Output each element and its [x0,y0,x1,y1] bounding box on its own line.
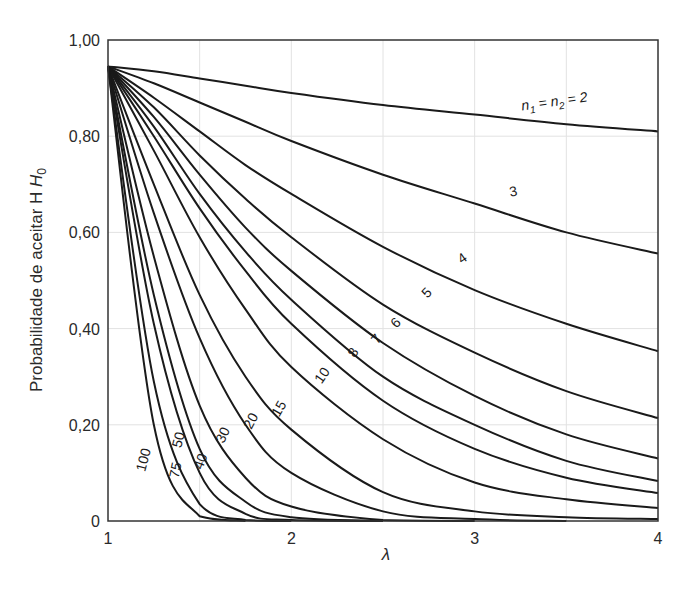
x-axis-label: λ [381,545,390,564]
curve-label-n-50: 50 [168,430,188,449]
y-tick-label: 0,60 [69,224,100,241]
curve-label-n-3: 3 [508,182,519,199]
y-tick-label: 1,00 [69,32,100,49]
curve-label-n-30: 30 [212,424,233,445]
curve-label-n-75: 75 [166,460,185,479]
curve-label-n-40: 40 [190,451,210,471]
curve-label-n-4: 4 [454,249,470,267]
curve-labels: n1 = n2 = 234567810152030405075100 [132,88,589,479]
y-axis-ticks: 00,200,400,600,801,00 [69,32,100,530]
curve-label-n-10: 10 [311,364,333,386]
oc-curve-chart: 00,200,400,600,801,00 1234 n1 = n2 = 234… [0,0,694,594]
curve-label-n-7: 7 [368,331,385,347]
curve-label-n-100: 100 [132,446,154,473]
curve-label-n-20: 20 [240,410,262,431]
curve-label-n-5: 5 [418,284,435,301]
curve-label-n-n1 = n2 = 2: n1 = n2 = 2 [520,88,589,116]
grid-lines [108,40,658,521]
y-axis-label: Probabilidade de aceitar H H0 [27,168,49,392]
x-tick-label: 3 [470,530,479,547]
y-tick-label: 0,20 [69,417,100,434]
x-tick-label: 1 [104,530,113,547]
oc-curve-n-20 [108,66,566,521]
y-tick-label: 0,40 [69,321,100,338]
y-tick-label: 0,80 [69,128,100,145]
x-tick-label: 4 [654,530,663,547]
x-tick-label: 2 [287,530,296,547]
y-tick-label: 0 [91,513,100,530]
curve-label-n-15: 15 [268,398,290,420]
